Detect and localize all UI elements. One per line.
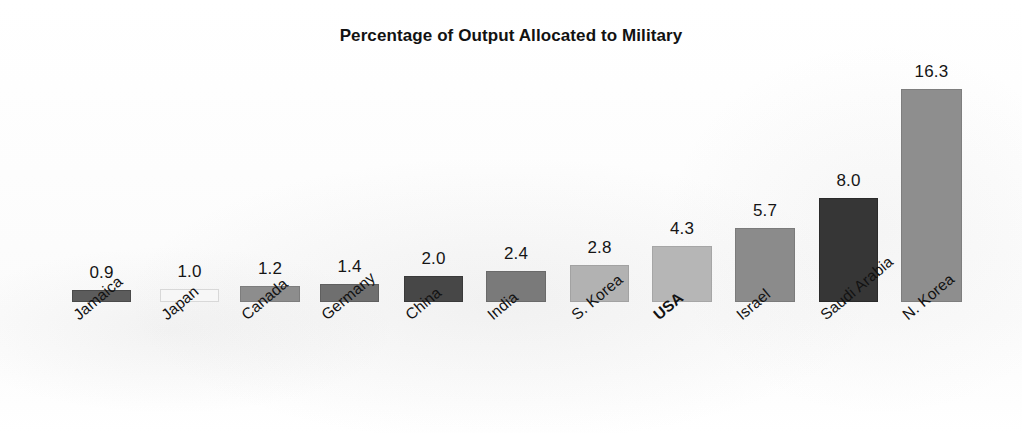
- plot-area: 0.9Jamaica1.0Japan1.2Canada1.4Germany2.0…: [0, 0, 1022, 433]
- bar-value-label: 16.3: [915, 62, 949, 82]
- bar-group: 0.9: [72, 0, 131, 302]
- bar-group: 1.4: [320, 0, 379, 302]
- bar-value-label: 2.0: [421, 249, 445, 269]
- bar-group: 16.3: [901, 0, 962, 302]
- bar-value-label: 8.0: [836, 171, 860, 191]
- bar: [901, 89, 962, 302]
- bar-value-label: 1.4: [337, 257, 361, 277]
- bar-value-label: 2.4: [504, 244, 528, 264]
- bar-group: 2.8: [570, 0, 629, 302]
- bar-value-label: 1.0: [177, 262, 201, 282]
- bar-group: 2.4: [486, 0, 546, 302]
- bar-value-label: 5.7: [753, 201, 777, 221]
- bar-value-label: 2.8: [587, 238, 611, 258]
- bar-value-label: 4.3: [670, 219, 694, 239]
- bar-group: 1.0: [160, 0, 219, 302]
- bar-group: 4.3: [652, 0, 712, 302]
- bar-group: 1.2: [240, 0, 300, 302]
- bar: [652, 246, 712, 302]
- bar-group: 2.0: [404, 0, 463, 302]
- bar-group: 5.7: [735, 0, 795, 302]
- bar-group: 8.0: [819, 0, 878, 302]
- bar-chart: Percentage of Output Allocated to Milita…: [0, 0, 1022, 433]
